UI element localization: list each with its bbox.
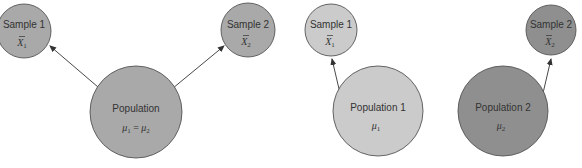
population2-node: Population 2 μ2: [458, 66, 548, 156]
sample2-label: Sample 2: [227, 19, 270, 30]
arrow-to-sample2: [167, 46, 224, 93]
population2-label: Population 2: [475, 102, 531, 113]
population1-node: Population 1 μ1: [333, 66, 423, 156]
right-sample1-node: Sample 1 X1: [305, 4, 357, 56]
sampling-diagrams: Sample 1 X1 Sample 2 X2 Population μ1 = …: [0, 0, 582, 168]
right-sample2-node: Sample 2 X2: [526, 5, 576, 55]
population-node: Population μ1 = μ2: [90, 66, 182, 158]
right-sample1-label: Sample 1: [310, 19, 353, 30]
population1-label: Population 1: [350, 102, 406, 113]
arrow-to-sample1: [50, 46, 105, 93]
population-label: Population: [112, 103, 159, 114]
right-sample2-label: Sample 2: [530, 19, 573, 30]
two-population-diagram: Sample 1 X1 Population 1 μ1 Sample 2 X2 …: [305, 4, 576, 156]
single-population-diagram: Sample 1 X1 Sample 2 X2 Population μ1 = …: [0, 3, 275, 158]
sample2-node: Sample 2 X2: [221, 3, 275, 57]
sample1-label: Sample 1: [3, 19, 46, 30]
sample1-node: Sample 1 X1: [0, 4, 51, 58]
